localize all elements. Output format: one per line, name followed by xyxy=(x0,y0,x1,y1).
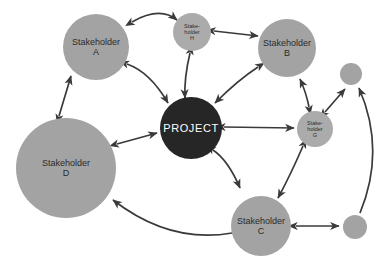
connection-project-g xyxy=(224,127,294,128)
connection-b-project xyxy=(215,67,258,103)
connection-g-c xyxy=(278,146,303,198)
nodes-layer xyxy=(16,13,367,256)
node-stakeholder-b[interactable] xyxy=(258,19,316,77)
node-stakeholder-a[interactable] xyxy=(63,14,129,80)
connection-d-a xyxy=(59,76,71,116)
node-stakeholder-d[interactable] xyxy=(16,118,116,218)
stakeholder-diagram: Stakeholder A Stakeholder B Stakeholder … xyxy=(0,0,382,268)
node-small-circle-bottom-right[interactable] xyxy=(343,215,367,239)
connection-h-project xyxy=(185,53,190,98)
connection-project-c xyxy=(213,150,240,188)
node-stakeholder-g[interactable] xyxy=(297,111,333,147)
connection-d-project xyxy=(117,133,157,144)
connection-g-b xyxy=(300,79,309,107)
connection-a-h xyxy=(132,13,177,22)
node-stakeholder-h[interactable] xyxy=(173,13,211,51)
node-stakeholder-c[interactable] xyxy=(231,196,291,256)
connection-a-project xyxy=(127,64,168,103)
node-small-circle-top-right[interactable] xyxy=(340,63,362,85)
diagram-canvas xyxy=(0,0,382,268)
connection-small-bottom-right-small-top-right xyxy=(359,88,373,213)
node-project[interactable] xyxy=(160,97,222,159)
connection-c-d xyxy=(113,200,232,235)
connection-h-b xyxy=(214,31,258,36)
connection-g-small-top-right xyxy=(325,89,345,112)
